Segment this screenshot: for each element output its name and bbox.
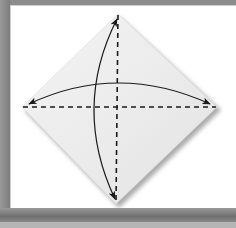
origami-diagram [0,0,236,228]
diagram-frame [0,0,236,228]
paper-diamond [22,14,217,204]
